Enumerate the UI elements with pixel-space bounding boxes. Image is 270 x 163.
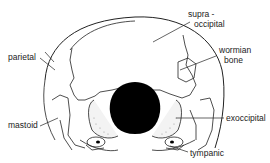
label-mastoid: mastoid: [8, 121, 38, 130]
label-wormian-line1: wormian: [219, 46, 251, 55]
skull-drawing: [0, 0, 270, 163]
foramen-magnum: [110, 82, 161, 134]
label-wormian-line2: bone: [224, 56, 243, 65]
label-exoccipital: exoccipital: [226, 114, 266, 123]
label-parietal: parietal: [8, 53, 36, 62]
skull-diagram: supra - occipital wormian bone parietal …: [0, 0, 270, 163]
label-supra-line1: supra -: [188, 10, 214, 19]
label-supra-line2: occipital: [194, 20, 225, 29]
label-tympanic: tympanic: [190, 149, 224, 158]
